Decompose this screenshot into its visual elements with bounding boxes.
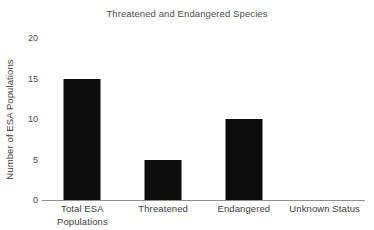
y-tick-label: 0	[4, 195, 38, 205]
y-tick-label: 20	[4, 33, 38, 43]
bar-series	[42, 38, 365, 200]
y-tick-label: 10	[4, 114, 38, 124]
bar-slot	[42, 38, 123, 200]
bar-slot	[123, 38, 204, 200]
y-axis-tick-labels: 05101520	[0, 0, 38, 230]
y-tick-label: 15	[4, 74, 38, 84]
bar[interactable]	[64, 79, 101, 201]
x-tick-label: Threatened	[123, 203, 204, 216]
bar-slot	[204, 38, 285, 200]
bar-chart: Threatened and Endangered Species Number…	[0, 0, 374, 230]
bar[interactable]	[145, 160, 182, 201]
chart-title: Threatened and Endangered Species	[0, 8, 374, 19]
x-axis-tick-labels: Total ESAPopulationsThreatenedEndangered…	[42, 203, 365, 230]
y-tick-label: 5	[4, 155, 38, 165]
x-tick-label: Unknown Status	[284, 203, 365, 216]
bar-slot	[284, 38, 365, 200]
bar[interactable]	[225, 119, 262, 200]
x-axis-line	[42, 200, 365, 201]
x-tick-label: Total ESAPopulations	[42, 203, 123, 228]
x-tick-label: Endangered	[204, 203, 285, 216]
